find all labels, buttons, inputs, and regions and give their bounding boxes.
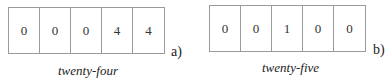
digit-cell: 4: [133, 8, 164, 53]
label-b: b): [373, 42, 385, 58]
digit-cell: 0: [71, 8, 102, 53]
digit-cell: 4: [102, 8, 133, 53]
digit-cell: 0: [210, 6, 241, 51]
digit-cell: 0: [9, 8, 40, 53]
caption-a: twenty-four: [58, 63, 118, 79]
digit-cell: 0: [334, 6, 365, 51]
register-a: 0 0 0 4 4: [8, 7, 165, 54]
digit-cell: 1: [272, 6, 303, 51]
label-a: a): [171, 44, 182, 60]
register-b: 0 0 1 0 0: [209, 5, 366, 52]
caption-b: twenty-five: [262, 60, 319, 76]
digit-cell: 0: [241, 6, 272, 51]
digit-cell: 0: [40, 8, 71, 53]
digit-cell: 0: [303, 6, 334, 51]
